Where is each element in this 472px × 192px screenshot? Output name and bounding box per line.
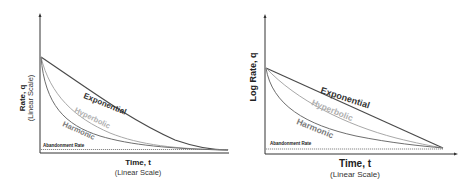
- y-axis-label: Log Rate, q: [248, 42, 258, 112]
- harmonic-curve: [41, 57, 228, 150]
- y-axis-title: Log Rate, q: [248, 42, 258, 112]
- y-axis-arrow-icon: [39, 13, 42, 17]
- chart-log-rate: Log Rate, q Time, t (Linear Scale) Expon…: [236, 0, 472, 192]
- abandonment-label: Abandonment Rate: [43, 143, 84, 148]
- x-axis-title: Time, t: [88, 158, 188, 168]
- x-axis-label: Time, t (Linear Scale): [88, 158, 188, 177]
- x-axis-subtitle: (Linear Scale): [88, 168, 188, 177]
- exponential-curve: [41, 57, 228, 150]
- x-axis-subtitle: (Linear Scale): [300, 170, 410, 180]
- y-axis-label: Rate, q (Linear Scale): [18, 68, 36, 128]
- y-axis-arrow-icon: [264, 14, 267, 18]
- hyperbolic-curve: [41, 57, 228, 150]
- x-axis-title: Time, t: [300, 158, 410, 170]
- y-axis-subtitle: (Linear Scale): [27, 68, 36, 128]
- x-axis-label: Time, t (Linear Scale): [300, 158, 410, 180]
- abandonment-label: Abandonment Rate: [270, 141, 311, 146]
- x-axis-arrow-icon: [454, 153, 458, 156]
- chart-linear-rate: Rate, q (Linear Scale) Time, t (Linear S…: [0, 0, 236, 192]
